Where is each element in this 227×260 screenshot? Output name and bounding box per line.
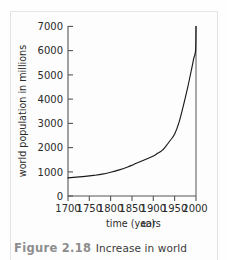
y-tick-label-5000: 5000 bbox=[38, 70, 63, 81]
population-chart: 7000 6000 5000 4000 3000 2000 1000 0 170… bbox=[0, 0, 227, 260]
y-axis-ticks bbox=[68, 26, 73, 196]
caption-number: Figure 2.18 bbox=[14, 241, 91, 255]
x-axis-tick-labels: 1700 1750 1800 1850 1900 1950 2000 bbox=[55, 203, 207, 214]
y-tick-label-0: 0 bbox=[57, 191, 63, 202]
x-axis-title: time (years AD ) bbox=[106, 218, 161, 229]
population-curve bbox=[68, 26, 196, 177]
y-tick-label-4000: 4000 bbox=[38, 94, 63, 105]
x-tick-label-2000: 2000 bbox=[182, 203, 207, 214]
x-axis-title-unit: AD bbox=[141, 220, 152, 229]
figure-caption: Figure 2.18 Increase in world bbox=[14, 238, 219, 258]
figure-container: 7000 6000 5000 4000 3000 2000 1000 0 170… bbox=[0, 0, 227, 260]
caption-text: Increase in world bbox=[96, 242, 187, 254]
y-axis-tick-labels: 7000 6000 5000 4000 3000 2000 1000 0 bbox=[38, 21, 63, 202]
y-tick-label-6000: 6000 bbox=[38, 45, 63, 56]
x-axis-title-close: ) bbox=[152, 218, 156, 229]
y-tick-label-2000: 2000 bbox=[38, 142, 63, 153]
y-axis-title: world population in millions bbox=[17, 45, 28, 177]
x-axis-ticks bbox=[68, 196, 196, 201]
y-tick-label-7000: 7000 bbox=[38, 21, 63, 32]
y-tick-label-1000: 1000 bbox=[38, 167, 63, 178]
y-tick-label-3000: 3000 bbox=[38, 118, 63, 129]
